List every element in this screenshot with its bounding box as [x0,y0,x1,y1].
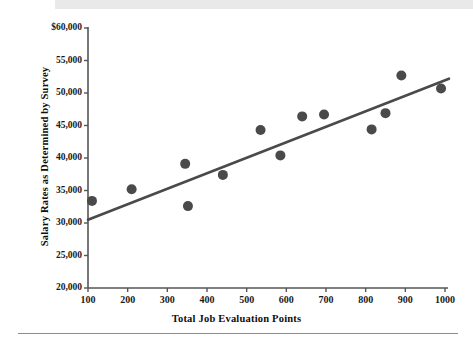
figure-page: 20,00025,00030,00035,00040,00045,00050,0… [0,0,473,345]
y-tick-label: 50,000 [18,87,82,97]
data-points [87,70,446,211]
y-tick-label: 45,000 [18,120,82,130]
data-point-0 [87,196,97,206]
page-bottom-rule [18,333,458,334]
data-point-1 [127,184,137,194]
y-tick-label: 30,000 [18,217,82,227]
data-point-10 [381,108,391,118]
y-tick-label: 20,000 [18,282,82,292]
data-point-12 [436,83,446,93]
data-point-8 [319,109,329,119]
data-point-6 [275,150,285,160]
data-point-9 [367,124,377,134]
trendline [88,79,449,220]
data-point-3 [183,201,193,211]
y-tick-label: $60,000 [18,22,82,32]
data-point-7 [297,111,307,121]
data-point-2 [180,159,190,169]
y-tick-label: 55,000 [18,55,82,65]
scatter-chart: 20,00025,00030,00035,00040,00045,00050,0… [0,0,473,345]
trendline-path [88,79,449,220]
data-point-5 [256,125,266,135]
y-tick-label: 40,000 [18,152,82,162]
y-axis-title: Salary Rates as Determined by Survey [39,32,50,282]
data-point-4 [218,170,228,180]
y-tick-label: 25,000 [18,250,82,260]
x-tick-label: 1000 [420,294,470,305]
data-point-11 [396,70,406,80]
axes [84,27,448,292]
x-axis-title: Total Job Evaluation Points [0,313,473,324]
y-tick-label: 35,000 [18,185,82,195]
